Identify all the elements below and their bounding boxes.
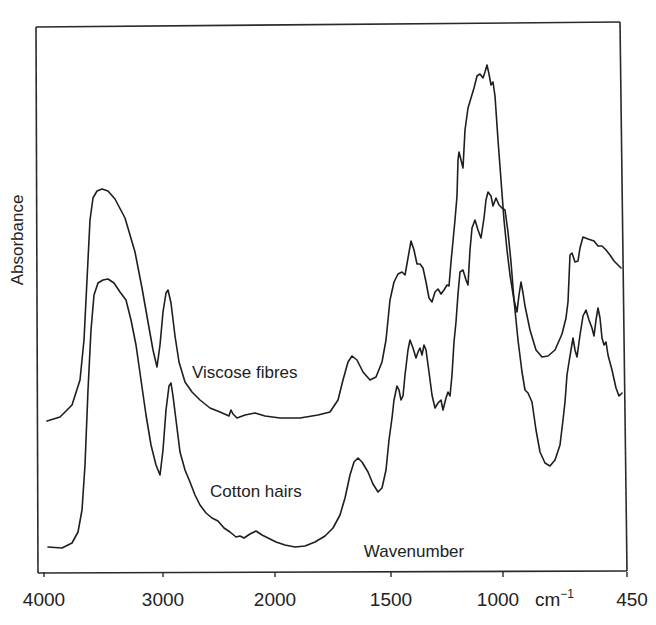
x-axis-tick-labels: 4000 3000 2000 1500 1000 cm−1 450 [23,587,648,610]
cotton-hairs-spectrum [48,192,622,548]
unit-exponent: −1 [560,587,574,601]
tick-label-4000: 4000 [23,589,65,610]
tick-label-1000: 1000 [477,589,519,610]
frame-left [36,27,38,573]
y-axis-title: Absorbance [8,195,27,286]
tick-label-2000: 2000 [254,589,296,610]
frame-right [620,22,627,571]
tick-label-1500: 1500 [370,589,412,610]
tick-label-3000: 3000 [142,589,184,610]
x-axis-title: Wavenumber [364,542,465,561]
x-axis-unit: cm−1 [535,587,574,610]
viscose-fibres-label: Viscose fibres [192,363,298,382]
frame-top [36,22,620,27]
ir-spectrum-chart: 4000 3000 2000 1500 1000 cm−1 450 Absorb… [0,0,656,625]
unit-base: cm [535,589,560,610]
cotton-hairs-label: Cotton hairs [210,482,302,501]
x-axis-line [38,571,627,573]
viscose-fibres-spectrum [47,65,621,421]
tick-label-450: 450 [616,589,648,610]
